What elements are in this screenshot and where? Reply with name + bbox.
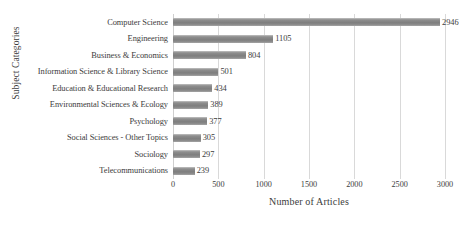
bar-value-label: 501 [220, 67, 232, 76]
bar-value-label: 434 [214, 84, 226, 93]
bar-value-label: 2946 [442, 18, 459, 27]
bar-value-label: 305 [203, 133, 215, 142]
gridline-2500 [400, 14, 401, 179]
x-tick-label: 1500 [301, 180, 317, 190]
x-tick-label: 2000 [346, 180, 362, 190]
bar [173, 167, 195, 175]
gridline-2000 [354, 14, 355, 179]
category-label: Social Sciences - Other Topics [16, 133, 168, 142]
category-label: Education & Educational Research [16, 84, 168, 93]
bar-chart: Subject Categories Computer ScienceEngin… [0, 0, 474, 226]
category-label: Information Science & Library Science [16, 67, 168, 76]
category-label: Business & Economics [16, 51, 168, 60]
category-label: Environmental Sciences & Ecology [16, 100, 168, 109]
category-label: Sociology [16, 150, 168, 159]
category-axis-labels: Computer ScienceEngineeringBusiness & Ec… [16, 14, 168, 179]
bar-value-label: 1105 [275, 34, 291, 43]
bar [173, 18, 440, 26]
bar [173, 150, 200, 158]
x-tick-label: 3000 [437, 180, 453, 190]
gridline-3000 [445, 14, 446, 179]
bar-value-label: 389 [210, 100, 222, 109]
x-tick-label: 500 [212, 180, 224, 190]
bar-value-label: 239 [197, 166, 209, 175]
bar-value-label: 804 [248, 51, 260, 60]
x-axis-tick-labels: 050010001500200025003000 [173, 180, 463, 192]
bar [173, 134, 201, 142]
bar [173, 117, 207, 125]
bar [173, 51, 246, 59]
bar [173, 68, 218, 76]
category-label: Computer Science [16, 18, 168, 27]
gridline-1500 [309, 14, 310, 179]
plot-area: 29461105804501434389377305297239 [173, 14, 445, 179]
bar [173, 84, 212, 92]
category-label: Psychology [16, 117, 168, 126]
category-label: Telecommunications [16, 166, 168, 175]
bar-value-label: 297 [202, 150, 214, 159]
category-label: Engineering [16, 34, 168, 43]
x-tick-label: 2500 [391, 180, 407, 190]
bar [173, 35, 273, 43]
bar [173, 101, 208, 109]
x-tick-label: 1000 [255, 180, 271, 190]
bar-value-label: 377 [209, 117, 221, 126]
x-tick-label: 0 [171, 180, 175, 190]
x-axis-title: Number of Articles [173, 196, 445, 207]
